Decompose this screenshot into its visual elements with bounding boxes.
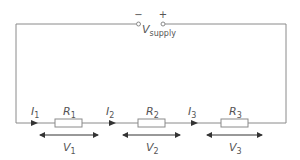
voltage-label: V1 <box>63 141 76 156</box>
supply-voltage-label: Vsupply <box>142 23 176 38</box>
current-arrow-icon <box>109 120 116 126</box>
positive-terminal-icon <box>161 22 165 26</box>
negative-symbol: − <box>134 9 142 20</box>
series-circuit-diagram: − + Vsupply R1 R2 R3 I1 I2 <box>0 0 300 160</box>
resistor-r3: R3 <box>221 105 248 127</box>
resistor-icon <box>138 119 165 127</box>
voltage-v2: V2 <box>123 135 180 156</box>
resistor-r1: R1 <box>55 105 82 127</box>
voltage-label: V2 <box>146 141 159 156</box>
current-arrow-icon <box>191 120 198 126</box>
resistor-icon <box>55 119 82 127</box>
resistor-r2: R2 <box>138 105 165 127</box>
voltage-v1: V1 <box>40 135 98 156</box>
resistor-label: R3 <box>229 105 242 120</box>
resistor-label: R2 <box>146 105 159 120</box>
voltage-v3: V3 <box>207 135 262 156</box>
current-label: I1 <box>31 105 39 120</box>
current-arrow-icon <box>31 120 38 126</box>
positive-symbol: + <box>159 9 167 20</box>
negative-terminal-icon <box>137 22 141 26</box>
current-label: I2 <box>106 105 114 120</box>
resistor-icon <box>221 119 248 127</box>
current-label: I3 <box>188 105 196 120</box>
resistor-label: R1 <box>63 105 76 120</box>
voltage-label: V3 <box>229 141 242 156</box>
